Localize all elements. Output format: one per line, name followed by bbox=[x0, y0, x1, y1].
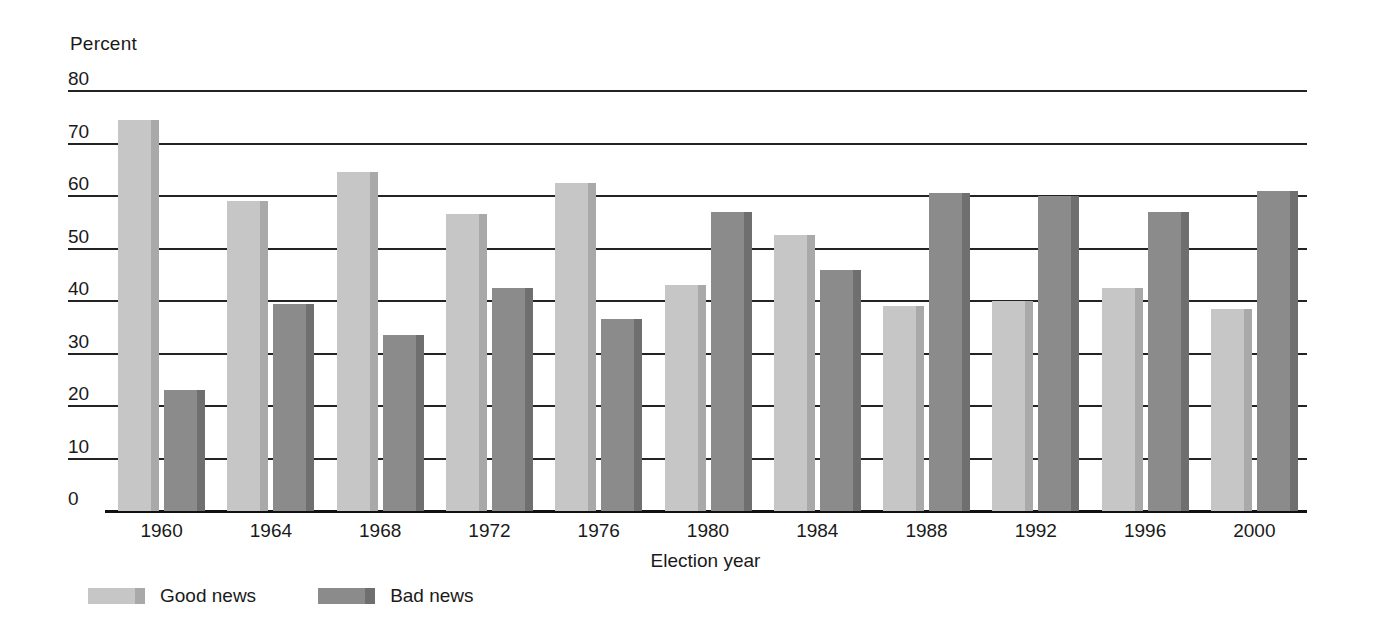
gridline bbox=[105, 90, 1307, 92]
legend-item-good[interactable]: Good news bbox=[88, 585, 256, 607]
bar-face bbox=[492, 288, 525, 511]
bar-bad-news-1992 bbox=[1038, 196, 1079, 511]
bar-face bbox=[1211, 309, 1244, 511]
bar-good-news-1980 bbox=[665, 285, 706, 511]
bar-bad-news-1984 bbox=[820, 270, 861, 512]
chart-legend: Good newsBad news bbox=[88, 585, 536, 607]
y-axis-tick-mark bbox=[68, 300, 105, 302]
x-axis-tick-label: 1976 bbox=[539, 520, 659, 542]
bar-face bbox=[992, 301, 1025, 511]
y-axis-title: Percent bbox=[70, 33, 137, 55]
y-axis-tick-mark bbox=[68, 90, 105, 92]
bar-face bbox=[929, 193, 962, 511]
bar-bad-news-1964 bbox=[273, 304, 314, 511]
bar-bad-news-2000 bbox=[1257, 191, 1298, 511]
x-axis-tick-label: 1968 bbox=[320, 520, 440, 542]
bar-face bbox=[446, 214, 479, 511]
x-axis-tick-label: 1992 bbox=[976, 520, 1096, 542]
bar-bad-news-1988 bbox=[929, 193, 970, 511]
legend-swatch-good-icon bbox=[88, 588, 145, 604]
bar-shade bbox=[416, 335, 424, 511]
bar-shade bbox=[1135, 288, 1143, 511]
chart-figure: Percent 80706050403020100 19601964196819… bbox=[0, 0, 1375, 639]
bar-good-news-1984 bbox=[774, 235, 815, 511]
bar-shade bbox=[1181, 212, 1189, 511]
bar-good-news-1996 bbox=[1102, 288, 1143, 511]
bar-shade bbox=[962, 193, 970, 511]
bar-bad-news-1980 bbox=[711, 212, 752, 511]
bar-face bbox=[227, 201, 260, 511]
y-axis-tick-mark bbox=[68, 458, 105, 460]
y-axis-tick-mark bbox=[68, 405, 105, 407]
x-axis-tick-label: 1964 bbox=[211, 520, 331, 542]
bar-shade bbox=[634, 319, 642, 511]
bar-shade bbox=[916, 306, 924, 511]
gridline bbox=[105, 195, 1307, 197]
legend-swatch-shade bbox=[365, 588, 375, 604]
bar-shade bbox=[1071, 196, 1079, 511]
y-axis-tick-mark bbox=[68, 195, 105, 197]
x-axis-tick-label: 1988 bbox=[867, 520, 987, 542]
bar-good-news-1976 bbox=[555, 183, 596, 511]
y-axis-tick-label: 30 bbox=[68, 332, 114, 351]
y-axis-tick-label: 0 bbox=[68, 489, 114, 508]
bar-shade bbox=[479, 214, 487, 511]
legend-swatch-shade bbox=[135, 588, 145, 604]
bar-face bbox=[555, 183, 588, 511]
legend-swatch-bad-icon bbox=[318, 588, 375, 604]
bar-face bbox=[601, 319, 634, 511]
y-axis-tick-label: 10 bbox=[68, 437, 114, 456]
bar-good-news-1972 bbox=[446, 214, 487, 511]
bar-shade bbox=[306, 304, 314, 511]
bar-good-news-1960 bbox=[118, 120, 159, 511]
bar-shade bbox=[853, 270, 861, 512]
y-axis-tick-mark bbox=[68, 143, 105, 145]
bar-face bbox=[1148, 212, 1181, 511]
bar-face bbox=[118, 120, 151, 511]
bar-good-news-1988 bbox=[883, 306, 924, 511]
bar-face bbox=[273, 304, 306, 511]
x-axis-title: Election year bbox=[0, 550, 1375, 572]
bar-shade bbox=[260, 201, 268, 511]
bar-good-news-1968 bbox=[337, 172, 378, 511]
bar-shade bbox=[525, 288, 533, 511]
y-axis-tick-label: 50 bbox=[68, 227, 114, 246]
y-axis-tick-label: 40 bbox=[68, 279, 114, 298]
legend-swatch-face bbox=[318, 588, 365, 604]
gridline bbox=[105, 248, 1307, 250]
bar-bad-news-1996 bbox=[1148, 212, 1189, 511]
bar-shade bbox=[1025, 301, 1033, 511]
bar-face bbox=[164, 390, 197, 511]
bar-face bbox=[711, 212, 744, 511]
x-axis-tick-label: 1984 bbox=[757, 520, 877, 542]
bar-face bbox=[883, 306, 916, 511]
bar-shade bbox=[698, 285, 706, 511]
bar-face bbox=[820, 270, 853, 512]
legend-label: Good news bbox=[160, 585, 256, 607]
bar-face bbox=[1257, 191, 1290, 511]
bar-shade bbox=[588, 183, 596, 511]
bar-shade bbox=[1244, 309, 1252, 511]
gridline bbox=[105, 143, 1307, 145]
bar-bad-news-1972 bbox=[492, 288, 533, 511]
bar-good-news-1964 bbox=[227, 201, 268, 511]
y-axis-tick-mark bbox=[68, 353, 105, 355]
x-axis-tick-label: 1960 bbox=[102, 520, 222, 542]
x-axis-tick-label: 1972 bbox=[429, 520, 549, 542]
bar-shade bbox=[744, 212, 752, 511]
bar-face bbox=[1038, 196, 1071, 511]
bar-bad-news-1960 bbox=[164, 390, 205, 511]
bar-face bbox=[665, 285, 698, 511]
bar-face bbox=[1102, 288, 1135, 511]
bar-bad-news-1976 bbox=[601, 319, 642, 511]
legend-label: Bad news bbox=[390, 585, 473, 607]
y-axis-tick-label: 20 bbox=[68, 384, 114, 403]
x-axis-tick-label: 1980 bbox=[648, 520, 768, 542]
legend-item-bad[interactable]: Bad news bbox=[318, 585, 473, 607]
y-axis-tick-label: 60 bbox=[68, 174, 114, 193]
y-axis-tick-label: 70 bbox=[68, 122, 114, 141]
bar-face bbox=[774, 235, 807, 511]
bar-shade bbox=[197, 390, 205, 511]
bar-good-news-1992 bbox=[992, 301, 1033, 511]
legend-swatch-face bbox=[88, 588, 135, 604]
